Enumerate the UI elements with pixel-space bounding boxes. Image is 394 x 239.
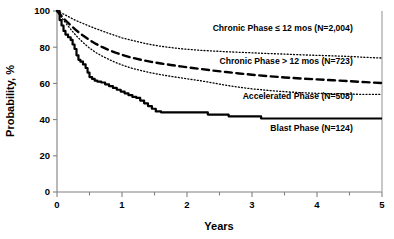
x-tick-label: 5: [379, 199, 385, 210]
series-line-0: [57, 11, 382, 58]
series-label-1: Chronic Phase > 12 mos (N=723): [219, 56, 352, 66]
y-axis-tick-labels: 020406080100: [34, 5, 50, 197]
y-tick-label: 40: [39, 114, 50, 125]
x-axis-title: Years: [204, 220, 233, 232]
x-tick-label: 3: [249, 199, 254, 210]
series-label-2: Accelerated Phase (N=508): [243, 91, 353, 101]
x-tick-label: 2: [184, 199, 189, 210]
y-axis-title: Probability, %: [4, 65, 16, 137]
x-tick-label: 1: [119, 199, 125, 210]
x-tick-label: 4: [314, 199, 320, 210]
plot-frame: [57, 11, 382, 192]
survival-curve-chart: 020406080100 012345 Chronic Phase ≤ 12 m…: [0, 0, 394, 239]
y-tick-label: 80: [39, 42, 50, 53]
x-tick-label: 0: [54, 199, 59, 210]
series-label-3: Blast Phase (N=124): [270, 123, 353, 133]
x-axis-tick-labels: 012345: [54, 199, 385, 210]
y-tick-label: 100: [34, 5, 50, 16]
y-tick-label: 20: [39, 150, 50, 161]
series-line-1: [57, 11, 382, 83]
y-tick-label: 0: [45, 186, 50, 197]
chart-canvas: 020406080100 012345 Chronic Phase ≤ 12 m…: [0, 0, 394, 239]
series-label-0: Chronic Phase ≤ 12 mos (N=2,004): [213, 23, 353, 33]
y-axis-ticks: [53, 11, 57, 192]
y-tick-label: 60: [39, 78, 50, 89]
